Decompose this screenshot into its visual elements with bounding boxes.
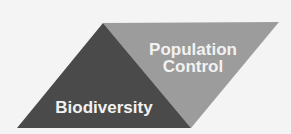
biodiversity-label: Biodiversity	[55, 98, 153, 117]
parallelogram-diagram: Population Control Biodiversity	[0, 0, 291, 134]
control-label: Control	[163, 57, 223, 76]
